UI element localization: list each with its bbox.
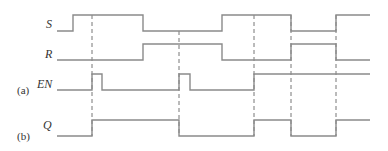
label-part-b: (b) — [17, 130, 30, 143]
label-q: Q — [43, 118, 52, 132]
label-en: EN — [36, 77, 53, 91]
waveform-en — [57, 74, 370, 90]
waveform-r — [57, 44, 370, 60]
signal-labels: S R EN Q (a) (b) — [17, 17, 53, 143]
waveforms — [57, 15, 370, 136]
label-part-a: (a) — [17, 84, 30, 97]
label-s: S — [46, 17, 52, 31]
label-r: R — [44, 47, 53, 61]
dashed-guides — [92, 15, 336, 136]
waveform-s — [57, 15, 370, 31]
waveform-q — [57, 120, 370, 136]
timing-diagram: S R EN Q (a) (b) — [0, 0, 388, 151]
